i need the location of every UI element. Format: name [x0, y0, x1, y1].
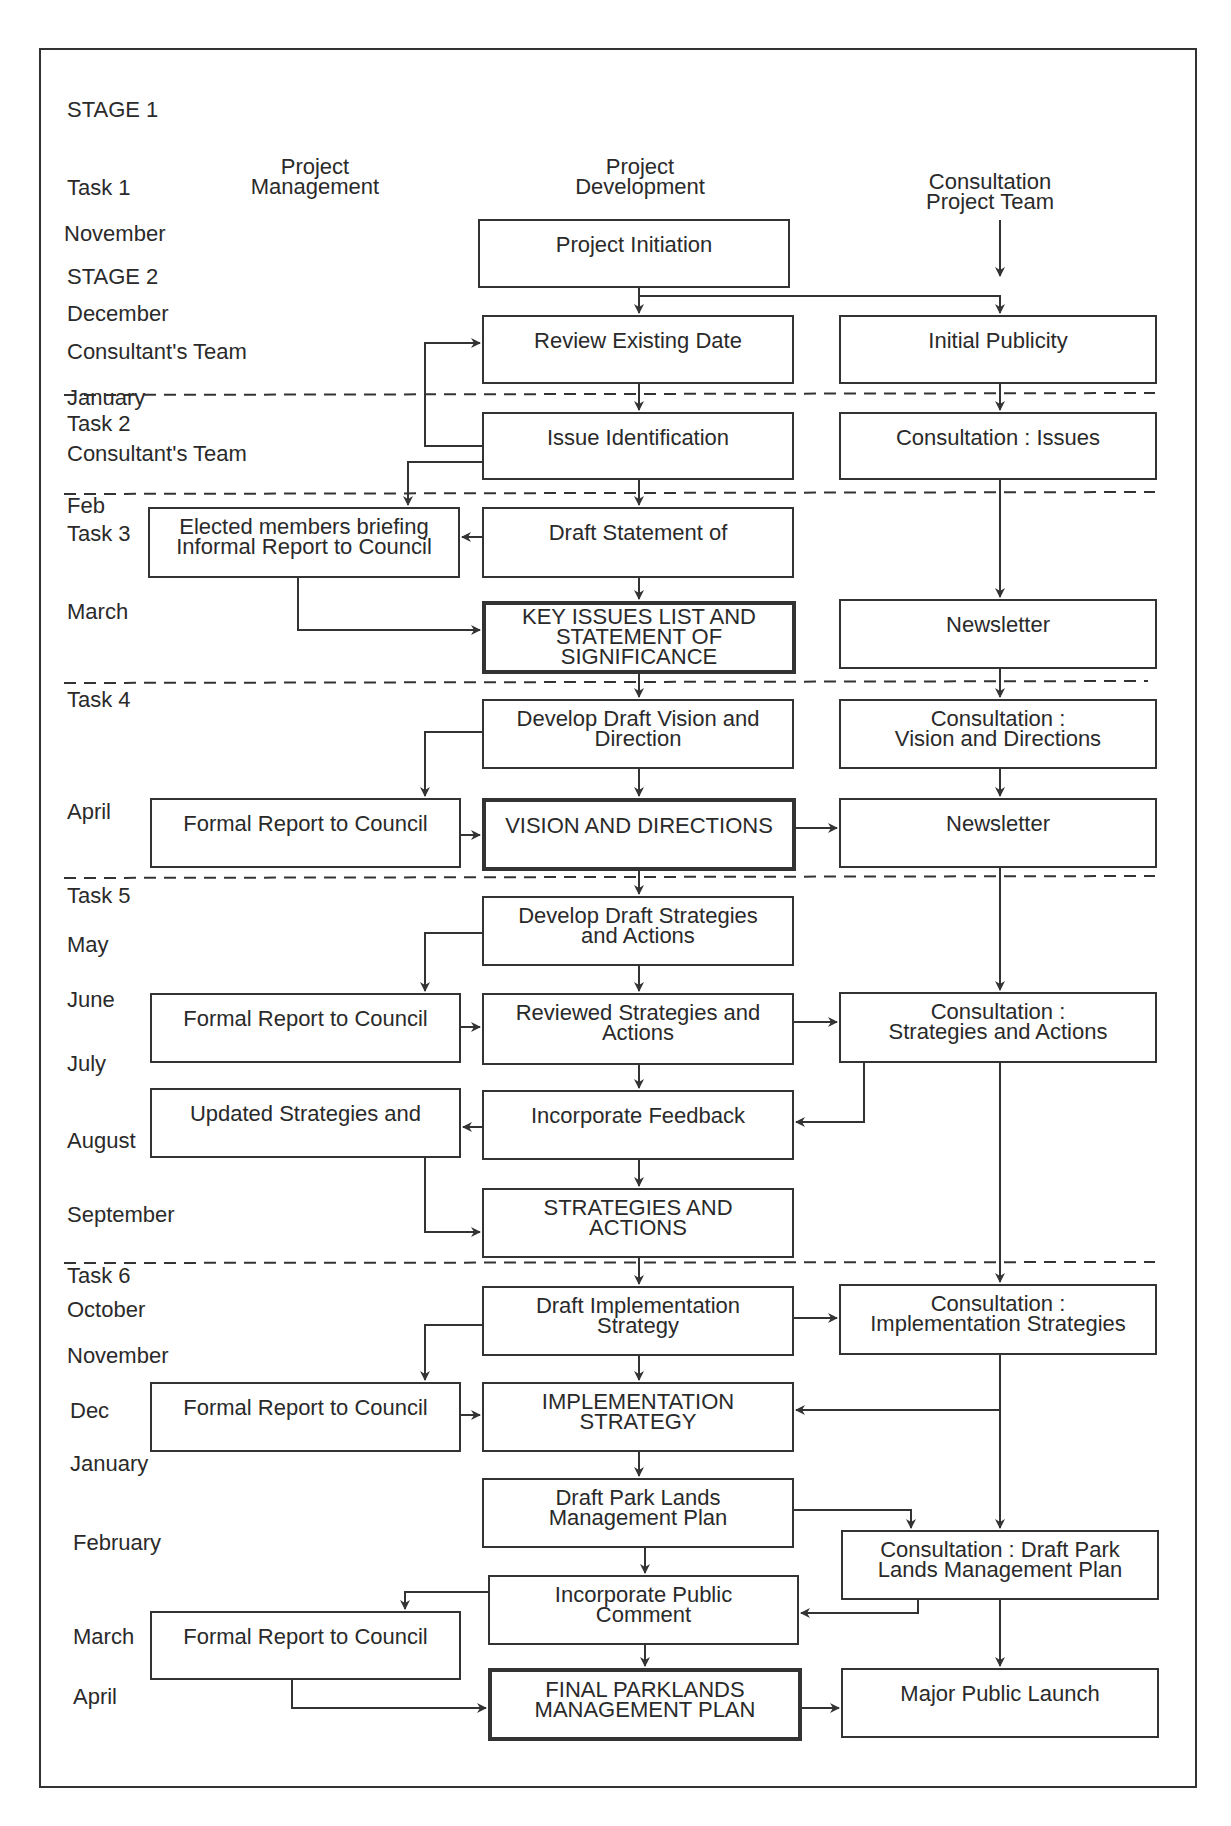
- row-label: April: [67, 801, 111, 823]
- box-formal-report-1: Formal Report to Council: [150, 798, 461, 868]
- row-label: January: [67, 387, 145, 409]
- box-final-parklands-plan: FINAL PARKLANDS MANAGEMENT PLAN: [488, 1668, 802, 1741]
- box-label: Project Initiation: [556, 235, 713, 286]
- column-header-management: Project Management: [240, 157, 390, 197]
- box-label: Updated Strategies and: [190, 1104, 421, 1156]
- row-label: Task 2: [67, 413, 131, 435]
- box-consultation-implementation: Consultation : Implementation Strategies: [839, 1284, 1157, 1355]
- box-label: Draft Implementation Strategy: [536, 1296, 740, 1354]
- box-formal-report-3: Formal Report to Council: [150, 1382, 461, 1452]
- row-label: February: [73, 1532, 161, 1554]
- box-label: Formal Report to Council: [183, 814, 428, 866]
- box-label: Formal Report to Council: [183, 1398, 428, 1450]
- row-label: August: [67, 1130, 136, 1152]
- box-label: Elected members briefing Informal Report…: [176, 517, 432, 576]
- box-consultation-vision: Consultation : Vision and Directions: [839, 699, 1157, 769]
- box-consultation-strategies: Consultation : Strategies and Actions: [839, 992, 1157, 1063]
- row-label: November: [64, 223, 165, 245]
- box-label: Major Public Launch: [900, 1684, 1099, 1736]
- row-label: September: [67, 1204, 175, 1226]
- box-label: Formal Report to Council: [183, 1627, 428, 1678]
- box-label: Consultation : Strategies and Actions: [889, 1002, 1108, 1061]
- box-strategies-and-actions: STRATEGIES AND ACTIONS: [482, 1188, 794, 1258]
- column-header-development: Project Development: [565, 157, 715, 197]
- row-label: July: [67, 1053, 106, 1075]
- box-label: Formal Report to Council: [183, 1009, 428, 1061]
- box-updated-strategies: Updated Strategies and: [150, 1088, 461, 1158]
- row-label: March: [73, 1626, 134, 1648]
- box-develop-draft-vision: Develop Draft Vision and Direction: [482, 699, 794, 769]
- box-label: Incorporate Feedback: [531, 1106, 745, 1158]
- box-label: Develop Draft Vision and Direction: [517, 709, 760, 767]
- row-label: Task 6: [67, 1265, 131, 1287]
- row-label: Consultant's Team: [67, 443, 247, 465]
- column-header-consultation: Consultation Project Team: [910, 172, 1070, 212]
- box-label: STRATEGIES AND ACTIONS: [543, 1198, 732, 1256]
- row-label: November: [67, 1345, 168, 1367]
- box-label: Initial Publicity: [928, 331, 1067, 382]
- row-label: March: [67, 601, 128, 623]
- box-label: IMPLEMENTATION STRATEGY: [542, 1392, 734, 1450]
- row-label: Task 4: [67, 689, 131, 711]
- box-formal-report-2: Formal Report to Council: [150, 993, 461, 1063]
- box-draft-implementation: Draft Implementation Strategy: [482, 1286, 794, 1356]
- row-label: Dec: [70, 1400, 109, 1422]
- box-label: Issue Identification: [547, 428, 729, 478]
- box-review-existing-date: Review Existing Date: [482, 315, 794, 384]
- box-formal-report-4: Formal Report to Council: [150, 1611, 461, 1680]
- box-label: FINAL PARKLANDS MANAGEMENT PLAN: [535, 1680, 756, 1737]
- box-reviewed-strategies: Reviewed Strategies and Actions: [482, 993, 794, 1065]
- box-draft-statement: Draft Statement of: [482, 507, 794, 578]
- box-label: Draft Park Lands Management Plan: [549, 1488, 728, 1546]
- box-newsletter-1: Newsletter: [839, 599, 1157, 669]
- row-label: Task 1: [67, 177, 131, 199]
- box-incorporate-feedback: Incorporate Feedback: [482, 1090, 794, 1160]
- row-label: Feb: [67, 495, 105, 517]
- box-label: Newsletter: [946, 615, 1050, 667]
- box-major-public-launch: Major Public Launch: [841, 1668, 1159, 1738]
- box-initial-publicity: Initial Publicity: [839, 315, 1157, 384]
- row-label: STAGE 1: [67, 99, 158, 121]
- box-develop-draft-strategies: Develop Draft Strategies and Actions: [482, 896, 794, 966]
- box-issue-identification: Issue Identification: [482, 412, 794, 480]
- box-draft-park-lands: Draft Park Lands Management Plan: [482, 1478, 794, 1548]
- box-label: Review Existing Date: [534, 331, 742, 382]
- box-label: VISION AND DIRECTIONS: [505, 816, 773, 867]
- row-label: STAGE 2: [67, 266, 158, 288]
- box-label: Consultation : Vision and Directions: [895, 709, 1101, 767]
- box-elected-members-briefing: Elected members briefing Informal Report…: [148, 507, 460, 578]
- box-label: Newsletter: [946, 814, 1050, 866]
- box-label: Consultation : Implementation Strategies: [870, 1294, 1126, 1353]
- box-implementation-strategy: IMPLEMENTATION STRATEGY: [482, 1382, 794, 1452]
- row-label: Task 3: [67, 523, 131, 545]
- box-newsletter-2: Newsletter: [839, 798, 1157, 868]
- row-label: December: [67, 303, 168, 325]
- box-consultation-draft-park: Consultation : Draft Park Lands Manageme…: [841, 1530, 1159, 1600]
- box-label: Draft Statement of: [549, 523, 728, 576]
- box-label: KEY ISSUES LIST AND STATEMENT OF SIGNIFI…: [522, 607, 756, 670]
- box-consultation-issues: Consultation : Issues: [839, 412, 1157, 480]
- box-label: Consultation : Issues: [896, 428, 1100, 478]
- row-label: June: [67, 989, 115, 1011]
- box-vision-and-directions: VISION AND DIRECTIONS: [482, 798, 796, 871]
- box-project-initiation: Project Initiation: [478, 219, 790, 288]
- row-label: May: [67, 934, 109, 956]
- box-label: Develop Draft Strategies and Actions: [518, 906, 758, 964]
- box-label: Consultation : Draft Park Lands Manageme…: [878, 1540, 1123, 1598]
- box-key-issues-list: KEY ISSUES LIST AND STATEMENT OF SIGNIFI…: [482, 601, 796, 674]
- box-label: Reviewed Strategies and Actions: [516, 1003, 761, 1063]
- row-label: October: [67, 1299, 145, 1321]
- row-label: April: [73, 1686, 117, 1708]
- box-label: Incorporate Public Comment: [555, 1585, 732, 1643]
- row-label: Consultant's Team: [67, 341, 247, 363]
- row-label: Task 5: [67, 885, 131, 907]
- row-label: January: [70, 1453, 148, 1475]
- box-incorporate-public-comment: Incorporate Public Comment: [488, 1575, 799, 1645]
